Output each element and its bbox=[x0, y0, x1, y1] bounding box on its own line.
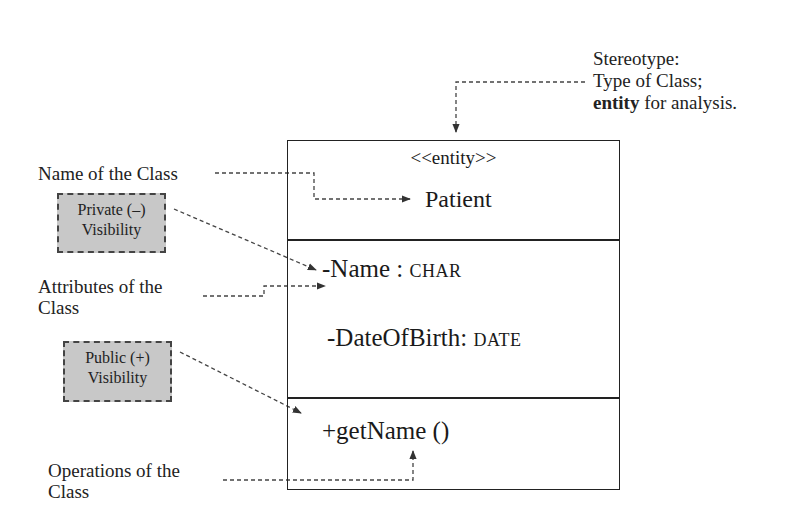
class-name-label: Name of the Class bbox=[38, 163, 178, 184]
stereotype-note-line2: Type of Class; bbox=[593, 70, 737, 92]
private-visibility-box: Private (–) Visibility bbox=[57, 193, 166, 253]
attribute-row: -DateOfBirth: DATE bbox=[327, 324, 521, 352]
operations-compartment: +getName () bbox=[288, 399, 619, 489]
stereotype-arrow bbox=[456, 82, 585, 132]
attribute-type: CHAR bbox=[409, 261, 461, 281]
attributes-label: Attributes of the Class bbox=[38, 276, 163, 318]
uml-class-box: <<entity>> Patient -Name : CHAR -DateOfB… bbox=[287, 140, 620, 490]
stereotype-note-line3: entity for analysis. bbox=[593, 92, 737, 114]
attribute-name: -DateOfBirth: bbox=[327, 324, 467, 351]
stereotype-note-line1: Stereotype: bbox=[593, 48, 737, 70]
attributes-label-line2: Class bbox=[38, 297, 163, 318]
private-visibility-line2: Visibility bbox=[59, 220, 164, 240]
attribute-row: -Name : CHAR bbox=[322, 255, 461, 283]
operation-row: +getName () bbox=[322, 417, 449, 445]
attributes-compartment: -Name : CHAR -DateOfBirth: DATE bbox=[288, 241, 619, 399]
operations-label: Operations of the Class bbox=[48, 460, 180, 502]
public-visibility-arrow bbox=[180, 352, 301, 413]
attributes-label-line1: Attributes of the bbox=[38, 276, 163, 297]
operations-label-line1: Operations of the bbox=[48, 460, 180, 481]
operations-label-line2: Class bbox=[48, 481, 180, 502]
stereotype-note-bold: entity bbox=[593, 92, 639, 113]
class-stereotype: <<entity>> bbox=[288, 147, 619, 169]
attribute-name: -Name : bbox=[322, 255, 403, 282]
public-visibility-line1: Public (+) bbox=[65, 348, 170, 368]
public-visibility-line2: Visibility bbox=[65, 368, 170, 388]
name-compartment: <<entity>> Patient bbox=[288, 141, 619, 241]
stereotype-note: Stereotype: Type of Class; entity for an… bbox=[593, 48, 737, 114]
attribute-type: DATE bbox=[473, 330, 521, 350]
stereotype-note-rest: for analysis. bbox=[639, 92, 737, 113]
class-name: Patient bbox=[425, 186, 492, 213]
public-visibility-box: Public (+) Visibility bbox=[63, 341, 172, 402]
private-visibility-line1: Private (–) bbox=[59, 200, 164, 220]
